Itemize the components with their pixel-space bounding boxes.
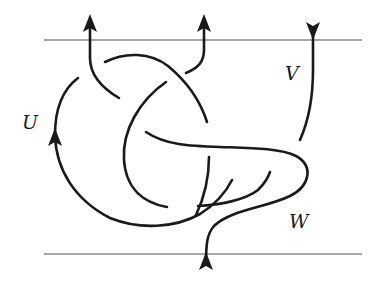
strand-v <box>300 28 313 140</box>
label-u: U <box>22 113 38 132</box>
label-v: V <box>285 64 299 83</box>
strand-w <box>146 132 307 264</box>
strand-u <box>55 78 232 226</box>
strand-middle-top <box>186 24 204 73</box>
tangle-diagram <box>0 0 380 292</box>
strand-inner-arc <box>124 82 167 207</box>
arrow-down-icon <box>306 22 320 40</box>
label-w: W <box>289 212 309 231</box>
